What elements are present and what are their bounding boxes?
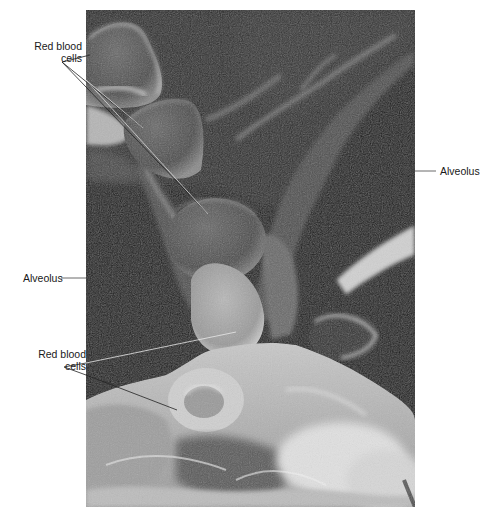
label-red-blood-cells-bottom: Red blood cells [10, 348, 86, 372]
label-alveolus-right: Alveolus [440, 165, 480, 177]
label-red-blood-cells-top: Red blood cells [10, 40, 82, 64]
label-line: cells [10, 52, 82, 64]
label-line: cells [10, 360, 86, 372]
label-line: Red blood [10, 40, 82, 52]
capillary-micrograph [86, 10, 415, 507]
label-line: Red blood [10, 348, 86, 360]
label-alveolus-left: Alveolus [23, 272, 63, 284]
micrograph-figure: Red blood cells Alveolus Alveolus Red bl… [0, 0, 494, 515]
